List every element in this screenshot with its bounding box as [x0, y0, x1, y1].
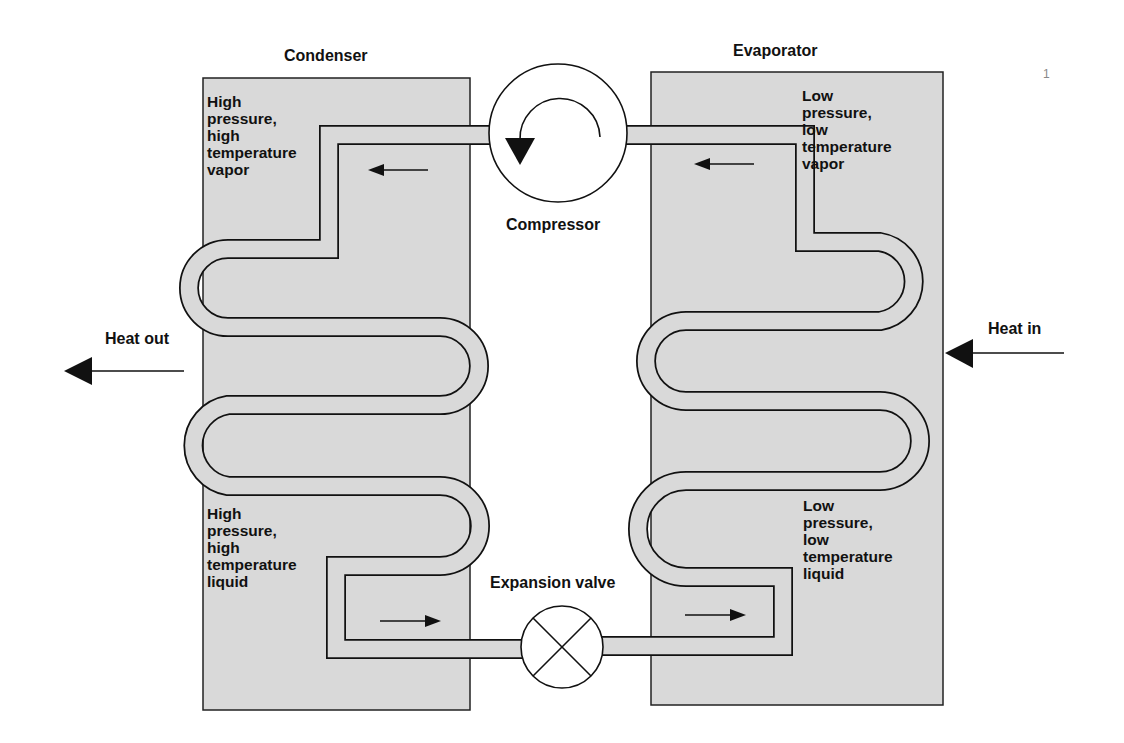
evaporator-label: Evaporator	[733, 42, 817, 60]
page-number: 1	[1043, 67, 1050, 81]
heat-out-arrow-icon	[64, 357, 184, 385]
condenser-bottom-state: High pressure, high temperature liquid	[207, 505, 297, 590]
heat-out-label: Heat out	[105, 330, 169, 348]
expansion-valve-icon	[521, 606, 603, 688]
condenser-label: Condenser	[284, 47, 368, 65]
expansion-valve-label: Expansion valve	[490, 574, 615, 592]
heat-in-arrow-icon	[945, 339, 1064, 368]
condenser-top-state: High pressure, high temperature vapor	[207, 93, 297, 178]
compressor-label: Compressor	[506, 216, 600, 234]
refrigeration-diagram	[0, 0, 1124, 743]
compressor-icon	[489, 64, 627, 202]
heat-in-label: Heat in	[988, 320, 1041, 338]
evaporator-top-state: Low pressure, low temperature vapor	[802, 87, 892, 172]
evaporator-bottom-state: Low pressure, low temperature liquid	[803, 497, 893, 582]
